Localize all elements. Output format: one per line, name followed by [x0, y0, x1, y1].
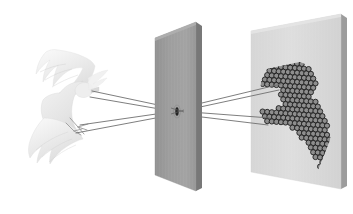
dove-tail-fan [29, 118, 84, 164]
image-plane-edge [341, 14, 347, 189]
pinhole-camera-diagram: Pinhole camera projection Dove in flight… [0, 0, 353, 214]
barrier-edge [196, 22, 202, 191]
dove-silhouette [29, 50, 109, 164]
diagram-canvas [0, 0, 353, 214]
barrier-texture [155, 22, 196, 191]
pinhole-barrier [155, 22, 202, 191]
